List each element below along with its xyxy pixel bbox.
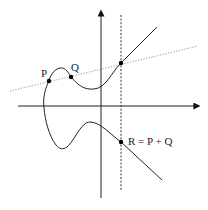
label-p: P	[41, 67, 47, 79]
label-r-sum: R = P + Q	[128, 135, 172, 147]
point-p	[47, 79, 51, 83]
elliptic-curve-diagram: P Q R = P + Q	[0, 0, 208, 210]
point-q	[69, 75, 73, 79]
label-q: Q	[71, 61, 79, 73]
elliptic-curve	[44, 27, 162, 180]
point-neg-r	[119, 61, 123, 65]
point-r	[119, 140, 123, 144]
